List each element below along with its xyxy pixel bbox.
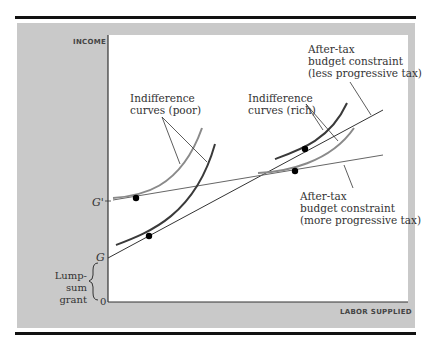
annotation-poor: Indifference curves (poor) — [130, 92, 201, 116]
annotation-less-progressive: After-tax budget constraint (less progre… — [308, 43, 422, 79]
lump-sum-label-line1: Lump-sum — [35, 270, 87, 294]
tangency-point-poor-less — [146, 233, 152, 239]
x-axis-label: LABOR SUPPLIED — [340, 306, 412, 318]
annotation-poor-line2: curves (poor) — [130, 104, 201, 116]
annotation-more-line2: budget constraint — [300, 202, 421, 214]
annotation-less-line2: budget constraint — [308, 55, 422, 67]
tangency-point-poor-more — [133, 195, 139, 201]
tangency-point-rich-less — [302, 146, 308, 152]
lump-sum-label: Lump-sum grant — [35, 270, 87, 306]
leader-less-progressive — [350, 82, 371, 115]
annotation-rich-line2: curves (rich) — [248, 104, 316, 116]
leader-poor-1 — [162, 117, 180, 164]
annotation-more-line1: After-tax — [300, 190, 421, 202]
annotation-rich: Indifference curves (rich) — [248, 92, 316, 116]
y-axis-label: INCOME — [73, 36, 106, 48]
annotation-less-line1: After-tax — [308, 43, 422, 55]
lump-sum-label-line2: grant — [35, 294, 87, 306]
g-prime-label: G' — [92, 197, 104, 209]
annotation-less-line3: (less progressive tax) — [308, 67, 422, 79]
indifference-curve-poor-dark — [116, 144, 215, 245]
annotation-more-line3: (more progressive tax) — [300, 214, 421, 226]
brace-lump-sum — [89, 263, 98, 300]
leader-poor-2 — [162, 117, 207, 162]
bottom-rule — [15, 332, 416, 335]
annotation-more-progressive: After-tax budget constraint (more progre… — [300, 190, 421, 226]
g-label: G — [96, 252, 105, 264]
leader-more-progressive — [344, 165, 353, 188]
annotation-poor-line1: Indifference — [130, 92, 201, 104]
origin-label: 0 — [100, 296, 106, 308]
tangency-point-rich-more — [292, 168, 298, 174]
annotation-rich-line1: Indifference — [248, 92, 316, 104]
